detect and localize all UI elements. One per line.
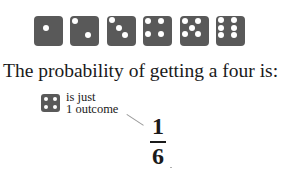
die-face-6-icon xyxy=(216,16,245,46)
pip-icon xyxy=(195,18,201,24)
pip-icon xyxy=(218,32,224,38)
pip-icon xyxy=(182,31,188,37)
die-face-5-icon xyxy=(180,16,209,46)
die-four-icon xyxy=(41,94,60,112)
pip-icon xyxy=(195,31,201,37)
pip-icon xyxy=(231,17,237,23)
outcome-annotation: is just 1 outcome xyxy=(66,91,118,115)
fraction-denominator: 6 xyxy=(149,145,167,167)
pip-icon xyxy=(231,25,237,31)
die-face-2-icon xyxy=(70,16,99,46)
pip-icon xyxy=(43,25,49,31)
speck-mark xyxy=(170,167,172,168)
pip-icon xyxy=(218,17,224,23)
annotation-leader-line xyxy=(126,114,143,126)
pip-icon xyxy=(145,18,151,24)
pip-icon xyxy=(116,25,122,31)
probability-statement: The probability of getting a four is: xyxy=(3,60,278,82)
die-face-3-icon xyxy=(107,16,136,46)
pip-icon xyxy=(231,32,237,38)
pip-icon xyxy=(122,32,128,38)
pip-icon xyxy=(158,31,164,37)
pip-icon xyxy=(189,25,195,31)
pip-icon xyxy=(218,25,224,31)
pip-icon xyxy=(182,18,188,24)
fraction-numerator: 1 xyxy=(149,115,167,137)
pip-icon xyxy=(109,17,115,23)
pip-icon xyxy=(158,18,164,24)
pip-icon xyxy=(85,32,91,38)
pip-icon xyxy=(72,18,78,24)
pip-icon xyxy=(145,31,151,37)
annotation-line-2: 1 outcome xyxy=(66,103,118,115)
die-face-4-icon xyxy=(143,16,172,46)
die-face-1-icon xyxy=(34,16,63,46)
